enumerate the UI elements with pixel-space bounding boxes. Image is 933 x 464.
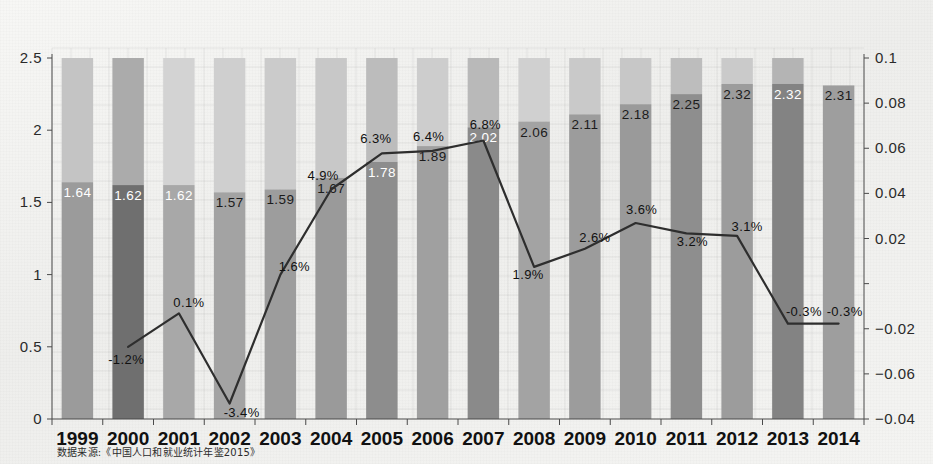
bar-value-label: 2.18: [622, 107, 650, 122]
bar-body-segment: [620, 104, 651, 419]
line-value-label: -0.3%: [827, 304, 863, 319]
line-value-label: 2.6%: [579, 230, 610, 245]
line-value-label: 4.9%: [308, 168, 339, 183]
line-value-label: 1.9%: [513, 267, 544, 282]
bar-cap-segment: [163, 58, 194, 185]
bar-body-segment: [62, 182, 93, 419]
x-axis-year-label: 2000: [107, 428, 149, 449]
y-axis-right-tick-label: 0.1: [875, 49, 897, 66]
bar-cap-segment: [569, 58, 600, 114]
x-axis-year-label: 2010: [614, 428, 656, 449]
bar-body-segment: [468, 127, 499, 419]
x-axis-year-label: 2011: [666, 428, 708, 449]
y-axis-left-tick-label: 1.5: [20, 193, 42, 210]
bar-value-label: 2.06: [520, 125, 548, 140]
bar-body-segment: [772, 84, 803, 419]
bar-value-label: 1.57: [216, 195, 244, 210]
y-axis-right-tick-label: −0.04: [875, 410, 915, 427]
bar-value-label: 1.62: [165, 188, 193, 203]
line-value-label: 6.4%: [413, 129, 444, 144]
bar-body-segment: [417, 146, 448, 419]
line-value-label: 0.1%: [173, 295, 204, 310]
bar-cap-segment: [721, 58, 752, 84]
x-axis-year-label: 2013: [767, 428, 809, 449]
bar-body-segment: [671, 94, 702, 419]
line-value-label: -0.3%: [786, 304, 822, 319]
y-axis-right-tick-label: 0.02: [875, 230, 906, 247]
chart-figure: 1.641.621.621.571.591.671.781.892.022.06…: [0, 0, 933, 464]
line-value-label: 3.6%: [626, 202, 657, 217]
x-axis-year-label: 2001: [158, 428, 201, 449]
y-axis-right-tick-label: 0.06: [875, 139, 906, 156]
x-axis-year-label: 2009: [564, 428, 606, 449]
y-axis-left-tick-label: 0.5: [20, 338, 42, 355]
line-value-label: 6.3%: [360, 131, 391, 146]
x-axis-year-label: 2003: [259, 428, 301, 449]
bar-body-segment: [721, 84, 752, 419]
bar-value-label: 1.59: [266, 192, 294, 207]
source-note: 数据来源:《中国人口和就业统计年鉴2015》: [57, 447, 260, 459]
y-axis-right-tick-label: −0.02: [875, 320, 915, 337]
bar-body-segment: [823, 85, 854, 419]
bar-value-label: 1.64: [63, 185, 91, 200]
bar-value-label: 2.25: [672, 97, 700, 112]
x-axis-year-label: 2007: [462, 428, 504, 449]
line-value-label: 1.6%: [279, 259, 310, 274]
y-axis-right-tick-label: 0.08: [875, 94, 906, 111]
y-axis-left-tick-label: 2.5: [20, 49, 42, 66]
bar-value-label: 2.31: [825, 88, 853, 103]
x-axis-year-label: 1999: [56, 428, 98, 449]
x-axis-year-label: 2006: [411, 428, 453, 449]
bar-cap-segment: [620, 58, 651, 104]
bar-body-segment: [112, 185, 143, 419]
x-axis-year-label: 2005: [361, 428, 404, 449]
y-axis-left-tick-label: 1: [33, 266, 42, 283]
line-value-label: -1.2%: [108, 352, 144, 367]
bar-cap-segment: [265, 58, 296, 189]
x-axis-year-label: 2002: [208, 428, 250, 449]
line-value-label: 3.2%: [677, 234, 708, 249]
bar-body-segment: [315, 178, 346, 419]
chart-plot-area: 1.641.621.621.571.591.671.781.892.022.06…: [0, 0, 933, 464]
y-axis-left-tick-label: 2: [33, 121, 42, 138]
y-axis-left-tick-label: 0: [33, 410, 42, 427]
bar-value-label: 2.11: [571, 117, 598, 132]
x-axis-year-label: 2012: [716, 428, 758, 449]
y-axis-right-tick-label: −0.06: [875, 365, 915, 382]
line-value-label: 3.1%: [732, 219, 763, 234]
x-axis-year-label: 2004: [310, 428, 353, 449]
bar-body-segment: [366, 162, 397, 419]
bar-cap-segment: [671, 58, 702, 94]
bar-cap-segment: [518, 58, 549, 122]
bar-value-label: 2.32: [723, 87, 751, 102]
x-axis-year-label: 2008: [513, 428, 555, 449]
bar-cap-segment: [62, 58, 93, 182]
bar-cap-segment: [214, 58, 245, 192]
y-axis-right-tick-label: 0.04: [875, 184, 906, 201]
bar-cap-segment: [772, 58, 803, 84]
bar-body-segment: [569, 114, 600, 419]
line-value-label: 6.8%: [470, 117, 501, 132]
bar-value-label: 1.62: [114, 188, 142, 203]
x-axis-year-label: 2014: [817, 428, 860, 449]
bar-cap-segment: [112, 58, 143, 185]
bar-value-label: 2.32: [774, 87, 802, 102]
bar-cap-segment: [315, 58, 346, 178]
bar-value-label: 1.78: [368, 165, 396, 180]
line-value-label: -3.4%: [224, 405, 260, 420]
